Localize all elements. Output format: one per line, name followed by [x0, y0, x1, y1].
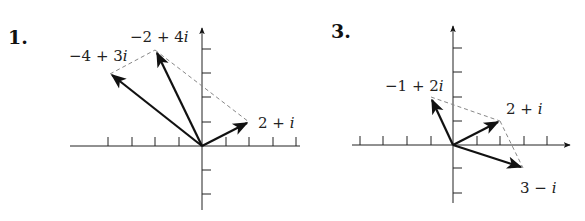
- label-neg4-plus-3i: −4 + 3i: [69, 47, 128, 65]
- parallelogram-dashed-sides: [110, 50, 249, 122]
- vector-neg4-plus-3i: [112, 75, 202, 146]
- label-3-minus-i: 3 − i: [520, 179, 557, 197]
- vectors: [112, 53, 247, 146]
- y-ticks: [453, 48, 462, 193]
- vector-neg1-plus-2i: [432, 100, 453, 145]
- figure-1: 1. 2 + i −4 + 3i −2 + 4i: [8, 26, 300, 210]
- vector-2-plus-i: [202, 123, 247, 146]
- label-2-plus-i: 2 + i: [258, 114, 295, 132]
- label-2-plus-i: 2 + i: [506, 100, 543, 118]
- vector-neg2-plus-4i: [157, 53, 202, 146]
- figure-number: 3.: [331, 20, 351, 42]
- figure-number: 1.: [8, 26, 28, 48]
- y-ticks: [202, 49, 211, 194]
- figure-3: 3. −1 + 2i 2 + i 3 − i: [331, 20, 570, 203]
- label-neg2-plus-4i: −2 + 4i: [130, 28, 189, 46]
- complex-plane-figures: 1. 2 + i −4 + 3i −2 + 4i: [0, 0, 585, 221]
- vector-2-plus-i: [453, 122, 498, 145]
- vector-3-minus-i: [453, 145, 521, 167]
- label-neg1-plus-2i: −1 + 2i: [385, 77, 444, 95]
